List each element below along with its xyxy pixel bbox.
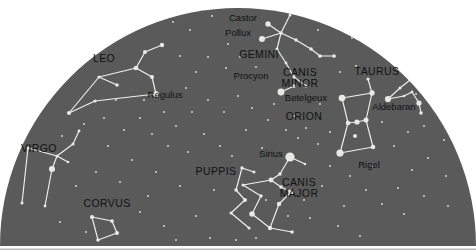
field-star <box>103 117 105 119</box>
star-t_pleiades <box>415 93 417 95</box>
star-t4 <box>411 91 414 94</box>
star-cma6 <box>277 202 281 206</box>
star-c4 <box>96 238 100 242</box>
field-star <box>445 175 447 177</box>
field-star <box>317 29 319 31</box>
star-p2 <box>253 171 256 174</box>
field-star <box>119 181 121 183</box>
star-o_head <box>366 77 369 80</box>
star-v_spica <box>49 166 55 172</box>
field-star <box>195 71 197 73</box>
star-g8 <box>285 62 288 65</box>
star-o_alnilam <box>354 119 359 124</box>
star-c3 <box>115 231 119 235</box>
field-star <box>191 111 193 113</box>
star-v1 <box>78 130 81 133</box>
field-star <box>223 111 225 113</box>
field-star <box>225 67 227 69</box>
star-cma1 <box>304 163 307 166</box>
field-star <box>179 55 181 57</box>
field-star <box>237 95 239 97</box>
sky-dome-svg: LEOGEMINICANISMINORTAURUSORIONVIRGOPUPPI… <box>0 0 476 251</box>
star-o_mintaka <box>346 121 351 126</box>
constellation-label-leo: LEO <box>93 52 115 64</box>
star-cma3 <box>269 178 274 183</box>
star-v6 <box>44 205 47 208</box>
star-g5 <box>309 47 313 51</box>
star-label-castor: Castor <box>229 12 257 23</box>
field-star <box>207 56 209 58</box>
field-star <box>443 139 445 141</box>
star-l8 <box>93 99 96 102</box>
field-star <box>175 239 177 241</box>
field-star <box>343 205 345 207</box>
star-label-procyon: Procyon <box>234 70 269 81</box>
star-l6 <box>115 83 119 87</box>
star-cma11 <box>242 184 245 187</box>
field-star <box>95 171 97 173</box>
star-o_saiph <box>371 145 376 150</box>
star-g7 <box>332 54 336 58</box>
star-l9 <box>67 111 71 115</box>
constellation-label-corvus: CORVUS <box>83 197 130 209</box>
field-star <box>273 103 275 105</box>
star-label-betelgeux: Betelgeux <box>285 92 328 103</box>
star-cma9 <box>268 226 272 230</box>
constellation-label-canis-minor: MINOR <box>282 77 319 89</box>
field-star <box>381 203 383 205</box>
constellation-label-virgo: VIRGO <box>21 142 57 154</box>
star-l1 <box>160 43 164 47</box>
star-g6 <box>318 54 322 58</box>
field-star <box>219 145 221 147</box>
star-cma8 <box>249 211 254 216</box>
field-star <box>303 199 305 201</box>
star-cma7 <box>259 194 263 198</box>
star-v3 <box>55 154 58 157</box>
field-star <box>189 29 191 31</box>
field-star <box>207 99 209 101</box>
field-star <box>359 235 361 237</box>
star-o_alnitak <box>363 117 368 122</box>
field-star <box>381 121 383 123</box>
field-star <box>213 189 215 191</box>
star-g4 <box>294 38 297 41</box>
field-star <box>59 221 61 223</box>
star-p3 <box>234 188 238 192</box>
field-star <box>329 131 331 133</box>
field-star <box>187 151 189 153</box>
field-star <box>115 99 117 101</box>
field-star <box>175 125 177 127</box>
field-star <box>329 165 331 167</box>
star-sirius <box>285 152 294 161</box>
constellation-label-taurus: TAURUS <box>355 65 400 77</box>
constellation-label-puppis: PUPPIS <box>196 165 237 177</box>
field-star <box>319 103 321 105</box>
field-star <box>423 195 425 197</box>
star-l4 <box>150 75 154 79</box>
field-star <box>427 157 429 159</box>
field-star <box>151 133 153 135</box>
field-star <box>317 143 319 145</box>
field-star <box>172 21 174 23</box>
field-star <box>227 43 229 45</box>
star-v7 <box>67 161 70 164</box>
star-o_bellatrix <box>369 90 374 95</box>
field-star <box>155 171 157 173</box>
field-star <box>75 185 77 187</box>
field-star <box>267 119 269 121</box>
field-star <box>163 111 165 113</box>
star-castor <box>265 21 270 26</box>
field-star <box>297 137 299 139</box>
field-star <box>255 66 257 68</box>
field-star <box>131 159 133 161</box>
star-g2 <box>279 31 283 35</box>
field-star <box>123 129 125 131</box>
field-star <box>185 87 187 89</box>
field-star <box>143 99 145 101</box>
field-star <box>447 205 449 207</box>
field-star <box>245 129 247 131</box>
field-star <box>139 211 141 213</box>
star-label-sirius: Sirius <box>259 148 283 159</box>
field-star <box>235 239 237 241</box>
star-label-pollux: Pollux <box>225 27 251 38</box>
